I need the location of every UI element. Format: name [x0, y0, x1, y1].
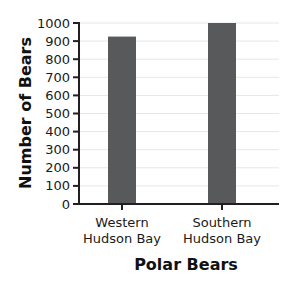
y-tick-label: 1000 [37, 16, 70, 31]
y-tick-label: 100 [45, 178, 70, 193]
x-tick-label: Western [95, 215, 148, 230]
y-tick-label: 800 [45, 52, 70, 67]
x-tick-label: Hudson Bay [183, 231, 261, 246]
y-tick-label: 300 [45, 142, 70, 157]
y-tick-label: 700 [45, 70, 70, 85]
bar [208, 23, 236, 204]
x-ticks: WesternHudson BaySouthernHudson Bay [83, 204, 261, 246]
y-ticks: 01002003004005006007008009001000 [37, 16, 79, 212]
x-tick-label: Hudson Bay [83, 231, 161, 246]
y-axis-title: Number of Bears [16, 37, 35, 189]
y-tick-label: 400 [45, 124, 70, 139]
bar [108, 37, 136, 204]
y-tick-label: 500 [45, 106, 70, 121]
x-axis-title: Polar Bears [134, 255, 238, 274]
chart: 01002003004005006007008009001000 Western… [0, 0, 301, 282]
y-tick-label: 900 [45, 34, 70, 49]
y-tick-label: 0 [62, 197, 70, 212]
y-tick-label: 200 [45, 160, 70, 175]
x-tick-label: Southern [192, 215, 251, 230]
y-tick-label: 600 [45, 88, 70, 103]
